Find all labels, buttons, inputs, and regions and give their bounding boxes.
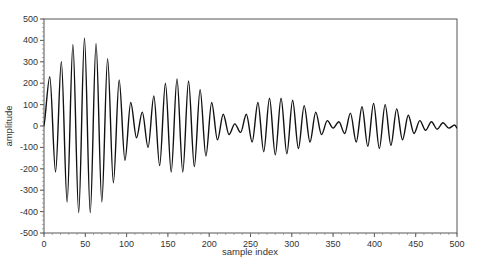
y-tick-label: -400 — [20, 207, 38, 217]
x-tick-label: 450 — [408, 239, 423, 249]
x-tick-label: 150 — [160, 239, 175, 249]
x-tick-label: 500 — [449, 239, 464, 249]
x-tick-label: 200 — [202, 239, 217, 249]
y-tick-label: -200 — [20, 164, 38, 174]
y-tick-label: 400 — [23, 35, 38, 45]
x-tick-label: 300 — [284, 239, 299, 249]
y-tick-label: 200 — [23, 78, 38, 88]
y-tick-label: 500 — [23, 14, 38, 24]
y-tick-label: -300 — [20, 185, 38, 195]
y-axis: 5004003002001000-100-200-300-400-500 — [20, 14, 44, 238]
line-chart: 5004003002001000-100-200-300-400-500 050… — [0, 0, 478, 272]
x-tick-label: 50 — [80, 239, 90, 249]
y-tick-label: -500 — [20, 228, 38, 238]
x-tick-label: 400 — [367, 239, 382, 249]
y-tick-label: 100 — [23, 100, 38, 110]
x-axis-label: sample index — [222, 246, 278, 257]
y-tick-label: 0 — [33, 121, 38, 131]
y-axis-label: amplitude — [3, 105, 14, 146]
plot-area — [44, 19, 457, 233]
x-tick-label: 350 — [326, 239, 341, 249]
x-tick-label: 0 — [41, 239, 46, 249]
x-tick-label: 100 — [119, 239, 134, 249]
y-tick-label: -100 — [20, 142, 38, 152]
y-tick-label: 300 — [23, 57, 38, 67]
